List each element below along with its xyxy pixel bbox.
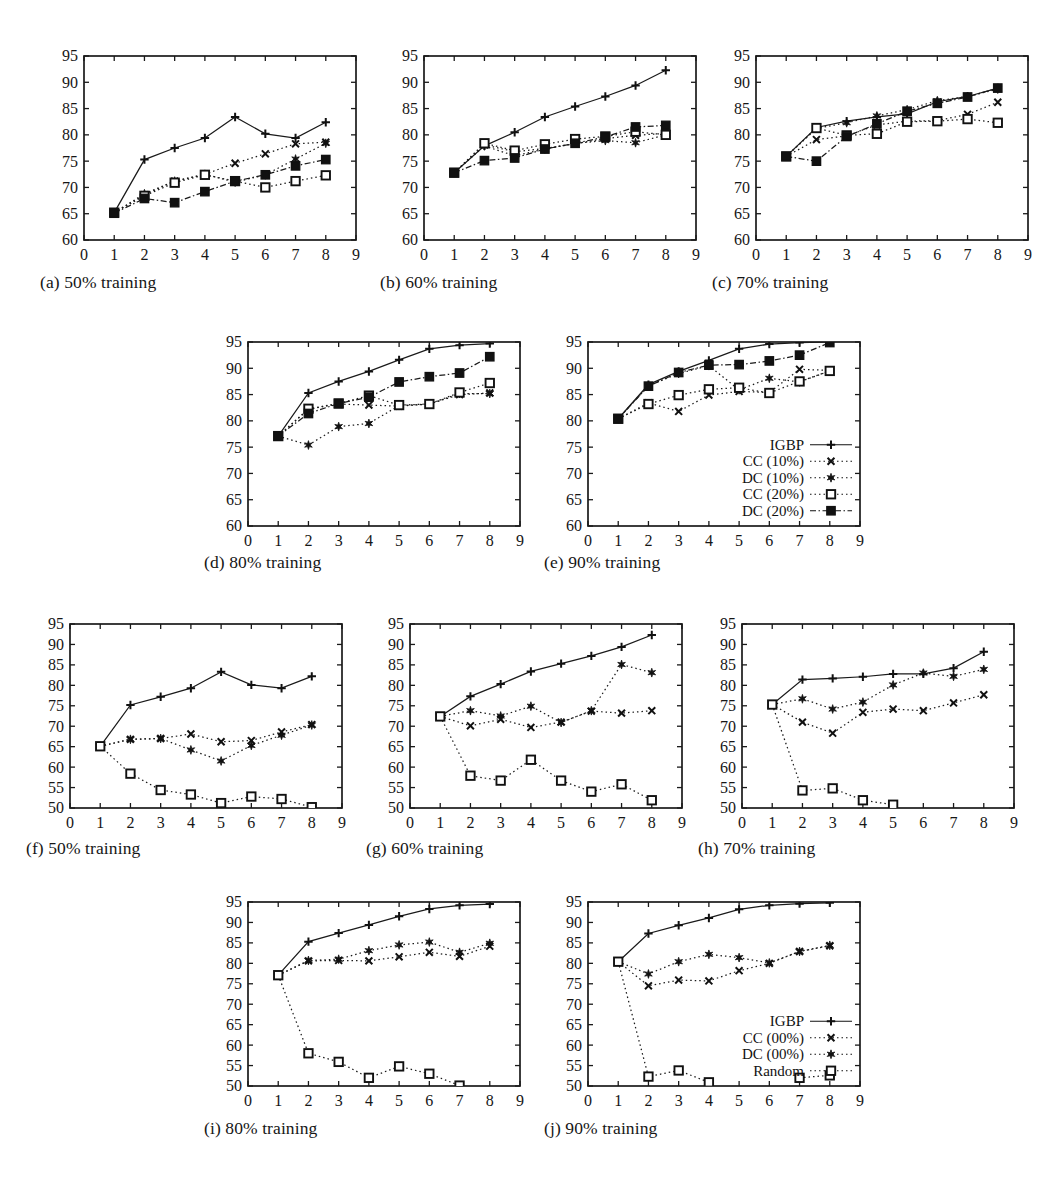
x-tick-label: 4 (541, 246, 549, 263)
x-tick-label: 3 (829, 814, 837, 831)
legend-label: DC (00%) (742, 1046, 804, 1063)
marker-open-square (455, 1081, 463, 1089)
marker-filled-square (486, 353, 494, 361)
panel-caption-f: (f) 50% training (26, 838, 140, 859)
y-tick-label: 90 (402, 74, 418, 91)
chart-legend: IGBPCC (10%)DC (10%)CC (20%)DC (20%) (736, 433, 856, 522)
marker-x (799, 719, 806, 726)
x-tick-label: 6 (765, 532, 773, 549)
chart-svg-j: 505560657075808590950123456789IGBPCC (00… (546, 890, 878, 1116)
y-tick-label: 65 (226, 1016, 242, 1033)
marker-open-square (795, 377, 803, 385)
marker-plus (334, 929, 342, 937)
x-tick-label: 4 (705, 532, 713, 549)
marker-filled-square (903, 107, 911, 115)
x-tick-label: 8 (308, 814, 316, 831)
marker-plus (365, 367, 373, 375)
x-tick-label: 8 (322, 246, 330, 263)
series-dc-00- (614, 941, 833, 978)
marker-open-square (705, 385, 713, 393)
marker-plus (527, 667, 535, 675)
marker-star (618, 660, 626, 669)
series-group (274, 339, 494, 449)
marker-open-square (425, 1070, 433, 1078)
x-tick-label: 1 (110, 246, 118, 263)
legend-label: DC (10%) (742, 470, 804, 487)
x-tick-label: 7 (456, 532, 464, 549)
marker-open-square (308, 803, 316, 811)
marker-x (980, 691, 987, 698)
legend-label: DC (20%) (742, 503, 804, 520)
axes: 505560657075808590950123456789 (48, 615, 346, 831)
y-tick-label: 95 (388, 615, 404, 632)
marker-plus (395, 356, 403, 364)
x-tick-label: 3 (171, 246, 179, 263)
marker-plus (425, 905, 433, 913)
marker-plus (334, 377, 342, 385)
y-tick-label: 60 (48, 759, 64, 776)
series-group (450, 66, 670, 177)
x-tick-label: 0 (80, 246, 88, 263)
x-tick-label: 3 (157, 814, 165, 831)
marker-star (648, 668, 656, 677)
y-tick-label: 70 (734, 179, 750, 196)
series-dc-20- (110, 155, 330, 217)
y-tick-label: 80 (720, 677, 736, 694)
marker-open-square (903, 118, 911, 126)
marker-open-square (873, 130, 881, 138)
marker-filled-square (455, 369, 463, 377)
y-tick-label: 75 (402, 153, 418, 170)
legend-label: CC (20%) (743, 486, 804, 503)
marker-filled-square (933, 99, 941, 107)
panel-caption-j: (j) 90% training (544, 1118, 657, 1139)
panel-caption-a: (a) 50% training (40, 272, 156, 293)
marker-x (675, 408, 682, 415)
axes: 60657075808590950123456789 (62, 47, 360, 263)
marker-plus (486, 900, 494, 908)
chart-svg-e: 60657075808590950123456789IGBPCC (10%)DC… (546, 330, 878, 556)
x-tick-label: 0 (244, 1092, 252, 1109)
y-tick-label: 85 (226, 386, 242, 403)
y-tick-label: 75 (226, 975, 242, 992)
marker-open-square (486, 379, 494, 387)
marker-open-square (480, 139, 488, 147)
y-tick-label: 55 (720, 779, 736, 796)
y-tick-label: 80 (388, 677, 404, 694)
x-tick-label: 6 (425, 532, 433, 549)
chart-panel-i: 505560657075808590950123456789 (206, 890, 538, 1116)
x-tick-label: 1 (768, 814, 776, 831)
x-tick-label: 0 (244, 532, 252, 549)
series-igbp (274, 900, 494, 980)
marker-plus (140, 155, 148, 163)
chart-svg-g: 505560657075808590950123456789 (368, 612, 700, 838)
y-tick-label: 95 (566, 333, 582, 350)
x-tick-label: 6 (587, 814, 595, 831)
y-tick-label: 90 (720, 636, 736, 653)
y-tick-label: 60 (388, 759, 404, 776)
x-tick-label: 5 (889, 814, 897, 831)
x-tick-label: 9 (516, 532, 524, 549)
marker-plus (217, 668, 225, 676)
x-tick-label: 0 (738, 814, 746, 831)
y-tick-label: 50 (226, 1077, 242, 1094)
x-tick-label: 2 (140, 246, 148, 263)
x-tick-label: 6 (261, 246, 269, 263)
x-tick-label: 5 (395, 1092, 403, 1109)
y-tick-label: 90 (566, 360, 582, 377)
marker-filled-square (571, 139, 579, 147)
marker-plus (170, 144, 178, 152)
x-tick-label: 5 (395, 532, 403, 549)
axes: 60657075808590950123456789 (226, 333, 524, 549)
x-tick-label: 9 (692, 246, 700, 263)
x-tick-label: 3 (675, 532, 683, 549)
chart-panel-g: 505560657075808590950123456789 (368, 612, 700, 838)
marker-plus (231, 113, 239, 121)
x-tick-label: 5 (735, 1092, 743, 1109)
x-tick-label: 4 (527, 814, 535, 831)
marker-open-square (994, 119, 1002, 127)
x-tick-label: 2 (480, 246, 488, 263)
marker-filled-square (765, 357, 773, 365)
series-dc-00- (436, 660, 655, 727)
series-random (274, 971, 464, 1090)
marker-open-square (674, 391, 682, 399)
